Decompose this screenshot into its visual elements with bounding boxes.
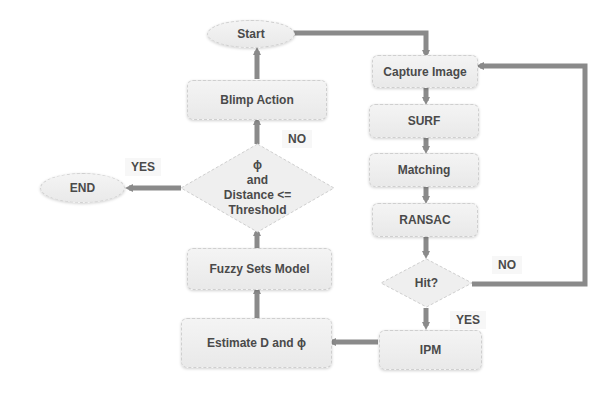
fuzzy-sets-model-label: Fuzzy Sets Model xyxy=(209,262,309,276)
no-label-right: NO xyxy=(492,256,522,274)
decision-line-3: Distance <= xyxy=(224,188,291,203)
matching-label: Matching xyxy=(398,163,451,177)
decision-hit: Hit? xyxy=(380,258,473,308)
fuzzy-sets-model-node: Fuzzy Sets Model xyxy=(187,248,332,290)
decision-line-4: Threshold xyxy=(228,203,286,218)
estimate-label: Estimate D and ϕ xyxy=(207,336,306,350)
hit-label: Hit? xyxy=(415,276,438,291)
start-node: Start xyxy=(207,20,295,48)
ransac-label: RANSAC xyxy=(399,213,450,227)
ipm-node: IPM xyxy=(379,330,482,370)
matching-node: Matching xyxy=(369,153,479,187)
blimp-action-label: Blimp Action xyxy=(220,93,294,107)
capture-image-node: Capture Image xyxy=(372,55,478,88)
capture-image-label: Capture Image xyxy=(383,65,466,79)
surf-node: SURF xyxy=(369,104,479,138)
decision-distance-threshold: ϕ and Distance <= Threshold xyxy=(180,143,335,233)
estimate-node: Estimate D and ϕ xyxy=(181,318,332,368)
ipm-label: IPM xyxy=(420,343,441,357)
decision-line-1: ϕ xyxy=(253,158,262,173)
end-label: END xyxy=(70,181,95,195)
end-node: END xyxy=(40,173,125,203)
decision-line-2: and xyxy=(247,173,268,188)
yes-label-bottom: YES xyxy=(450,311,486,329)
blimp-action-node: Blimp Action xyxy=(187,80,327,120)
yes-label-left: YES xyxy=(125,158,161,176)
surf-label: SURF xyxy=(408,114,441,128)
ransac-node: RANSAC xyxy=(372,203,478,237)
start-label: Start xyxy=(237,27,264,41)
